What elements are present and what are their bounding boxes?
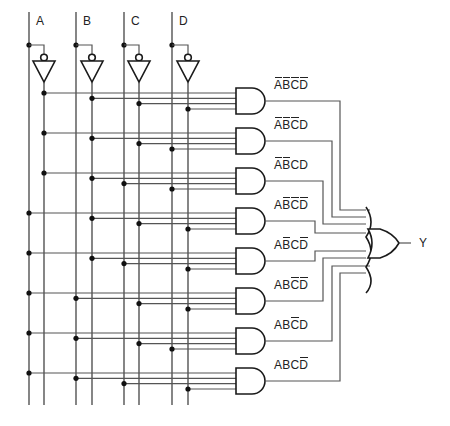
inverter-bubble-icon	[89, 54, 96, 61]
junction-node	[26, 250, 31, 255]
junction-node	[89, 136, 94, 141]
minterm-label: ABCD	[274, 159, 308, 171]
or-gate-icon	[368, 229, 399, 258]
minterm-literal: B	[282, 119, 290, 131]
junction-node	[169, 186, 174, 191]
input-label-b: B	[83, 14, 91, 28]
inverter-feed-wire	[76, 45, 92, 54]
junction-node	[121, 381, 126, 386]
minterm-label: ABCD	[274, 359, 308, 371]
and-output-wire	[265, 251, 370, 261]
junction-node	[169, 146, 174, 151]
minterm-literal: D	[299, 359, 308, 371]
and-gate-icon	[236, 248, 265, 274]
junction-node	[26, 290, 31, 295]
minterm-label: ABCD	[274, 239, 308, 251]
minterm-literal: B	[282, 239, 290, 251]
circuit-canvas	[0, 0, 450, 426]
and-gate-icon	[236, 168, 265, 194]
or-input-bus-curve	[366, 207, 371, 293]
and-gate-icon	[236, 208, 265, 234]
inverter-triangle-icon	[128, 61, 150, 82]
minterm-label: ABCD	[274, 279, 308, 291]
junction-node	[136, 341, 141, 346]
junction-node	[136, 221, 141, 226]
junction-node	[41, 170, 46, 175]
and-gate-icon	[236, 368, 265, 394]
minterm-label: ABCD	[274, 319, 308, 331]
minterm-literal: B	[282, 279, 290, 291]
inverter-triangle-icon	[177, 61, 199, 82]
input-label-d: D	[179, 14, 188, 28]
minterm-literal: C	[290, 359, 299, 371]
junction-node	[41, 90, 46, 95]
minterm-literal: A	[274, 79, 282, 91]
logic-circuit-diagram: A B C D Y ABCDABCDABCDABCDABCDABCDABCDAB…	[0, 0, 450, 426]
minterm-literal: B	[282, 159, 290, 171]
inverter-bubble-icon	[185, 54, 192, 61]
minterm-literal: A	[274, 239, 282, 251]
minterm-literal: D	[299, 199, 308, 211]
junction-node	[185, 106, 190, 111]
junction-node	[121, 181, 126, 186]
minterm-literal: D	[299, 279, 308, 291]
junction-node	[73, 336, 78, 341]
and-gate-icon	[236, 88, 265, 114]
inverter-triangle-icon	[33, 61, 55, 82]
junction-node	[73, 376, 78, 381]
minterm-literal: B	[282, 79, 290, 91]
minterm-label: ABCD	[274, 79, 308, 91]
junction-node	[121, 261, 126, 266]
minterm-literal: A	[274, 199, 282, 211]
minterm-literal: C	[290, 199, 299, 211]
minterm-literal: C	[290, 119, 299, 131]
junction-node	[136, 301, 141, 306]
junction-node	[136, 101, 141, 106]
minterm-literal: B	[282, 319, 290, 331]
minterm-literal: D	[299, 79, 308, 91]
junction-node	[41, 130, 46, 135]
junction-node	[89, 176, 94, 181]
junction-node	[89, 256, 94, 261]
inverter-bubble-icon	[136, 54, 143, 61]
minterm-literal: D	[299, 239, 308, 251]
junction-node	[26, 330, 31, 335]
minterm-literal: D	[299, 319, 308, 331]
inverter-feed-wire	[29, 45, 44, 54]
minterm-literal: B	[282, 359, 290, 371]
minterm-label: ABCD	[274, 199, 308, 211]
junction-node	[89, 96, 94, 101]
junction-node	[185, 386, 190, 391]
junction-node	[185, 306, 190, 311]
minterm-literal: C	[290, 159, 299, 171]
minterm-literal: A	[274, 279, 282, 291]
junction-node	[185, 266, 190, 271]
minterm-literal: A	[274, 119, 282, 131]
and-gate-icon	[236, 288, 265, 314]
minterm-literal: A	[274, 319, 282, 331]
inverter-triangle-icon	[81, 61, 103, 82]
junction-node	[185, 226, 190, 231]
inverter-feed-wire	[172, 45, 188, 54]
minterm-literal: A	[274, 159, 282, 171]
and-output-wire	[265, 221, 370, 233]
minterm-literal: C	[290, 79, 299, 91]
junction-node	[169, 346, 174, 351]
junction-node	[136, 141, 141, 146]
minterm-literal: B	[282, 199, 290, 211]
and-gate-icon	[236, 328, 265, 354]
minterm-literal: C	[290, 319, 299, 331]
junction-node	[26, 210, 31, 215]
minterm-literal: C	[290, 239, 299, 251]
minterm-literal: C	[290, 279, 299, 291]
minterm-literal: A	[274, 359, 282, 371]
junction-node	[26, 370, 31, 375]
junction-node	[73, 296, 78, 301]
minterm-literal: D	[299, 159, 308, 171]
inverter-feed-wire	[124, 45, 139, 54]
output-label-y: Y	[419, 236, 427, 250]
minterm-label: ABCD	[274, 119, 308, 131]
and-gate-icon	[236, 128, 265, 154]
junction-node	[89, 216, 94, 221]
inverter-bubble-icon	[41, 54, 48, 61]
